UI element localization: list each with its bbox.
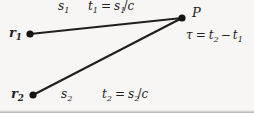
scan-bottom-edge-artifact: [0, 110, 254, 113]
label-tau-symbol: τ: [186, 28, 193, 42]
label-equation-t1: t1=s1/c: [88, 0, 134, 14]
label-t1-lhs-subscript: 1: [93, 5, 98, 15]
label-s1-subscript: 1: [64, 5, 69, 15]
label-t2-denominator: c: [142, 87, 149, 101]
source-point-r1-dot: [26, 30, 33, 37]
label-vector-r2: r2: [11, 87, 24, 103]
ray-segment-r1-to-p: [30, 18, 182, 34]
label-equation-tau: τ=t2−t1: [186, 29, 243, 43]
label-r1-base: r: [9, 25, 16, 40]
label-t2-lhs-subscript: 2: [107, 93, 112, 103]
source-point-r2-dot: [29, 91, 36, 98]
label-t1-denominator: c: [128, 0, 135, 13]
label-point-p: P: [192, 6, 201, 19]
label-r1-subscript: 1: [16, 32, 22, 42]
label-t2-equals: =: [115, 87, 125, 101]
ray-segment-r2-to-p: [33, 18, 182, 95]
label-r2-subscript: 2: [18, 93, 24, 103]
label-tau-equals: =: [196, 28, 206, 42]
label-tau-term2-subscript: 1: [238, 34, 243, 44]
label-vector-r1: r1: [9, 26, 22, 42]
label-r2-base: r: [11, 86, 18, 101]
label-distance-s1: s1: [58, 0, 69, 14]
label-distance-s2: s2: [61, 88, 72, 102]
observation-point-p-dot: [178, 14, 185, 21]
label-s2-subscript: 2: [67, 93, 72, 103]
label-equation-t2: t2=s2/c: [102, 88, 148, 102]
label-tau-term1-subscript: 2: [214, 34, 219, 44]
label-t1-equals: =: [101, 0, 111, 13]
physics-diagram-canvas: r1 r2 P s1 t1=s1/c s2 t2=s2/c τ=t2−t1: [0, 0, 254, 113]
label-tau-minus: −: [221, 28, 231, 42]
